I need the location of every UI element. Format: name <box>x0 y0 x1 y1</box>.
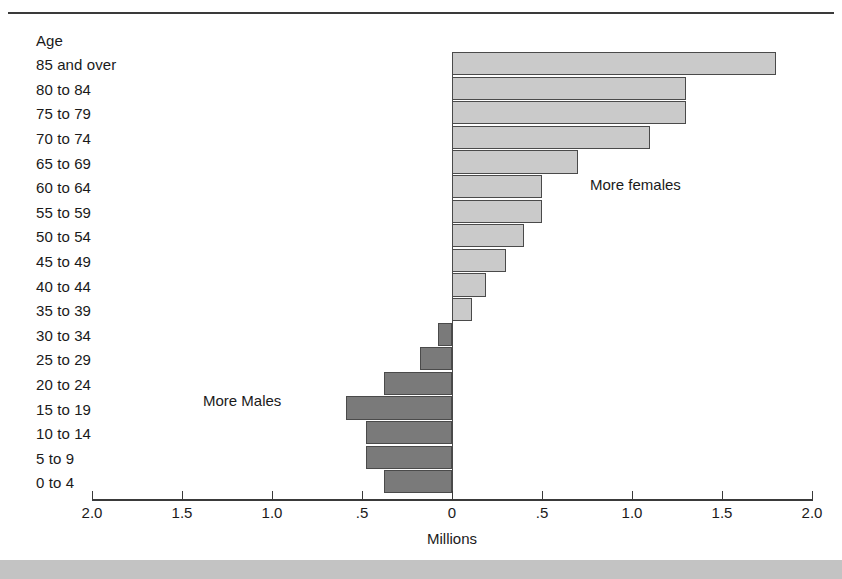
x-axis-tick <box>362 491 363 500</box>
age-group-label: 10 to 14 <box>36 425 91 442</box>
y-axis-title: Age <box>36 32 63 49</box>
x-axis-tick <box>542 491 543 500</box>
chart-row: 65 to 69 <box>0 150 842 175</box>
chart-row: 30 to 34 <box>0 323 842 348</box>
bar-more-males <box>384 470 452 493</box>
bar-more-females <box>452 224 524 247</box>
chart-row: 20 to 24 <box>0 372 842 397</box>
x-axis-tick <box>632 491 633 500</box>
bottom-color-band <box>0 560 842 579</box>
age-group-label: 70 to 74 <box>36 130 91 147</box>
bar-more-males <box>366 421 452 444</box>
age-group-label: 40 to 44 <box>36 277 91 294</box>
bar-more-males <box>420 347 452 370</box>
chart-row: 80 to 84 <box>0 77 842 102</box>
age-group-label: 0 to 4 <box>36 474 74 491</box>
bar-more-females <box>452 249 506 272</box>
chart-row: 0 to 4 <box>0 470 842 495</box>
x-axis-tick <box>182 491 183 500</box>
x-axis-tick-label: .5 <box>536 504 549 521</box>
x-axis-tick <box>812 491 813 500</box>
age-group-label: 65 to 69 <box>36 154 91 171</box>
bar-more-females <box>452 101 686 124</box>
x-axis-tick-label: 1.0 <box>622 504 643 521</box>
age-group-label: 75 to 79 <box>36 105 91 122</box>
annotation-more-females: More females <box>590 176 681 193</box>
bar-more-females <box>452 175 542 198</box>
chart-row: 35 to 39 <box>0 298 842 323</box>
age-group-label: 80 to 84 <box>36 80 91 97</box>
bar-more-males <box>346 396 452 419</box>
age-group-label: 50 to 54 <box>36 228 91 245</box>
x-axis-tick-label: 1.5 <box>712 504 733 521</box>
x-axis-tick-label: 1.5 <box>172 504 193 521</box>
x-axis-tick-label: 2.0 <box>802 504 823 521</box>
x-axis-title: Millions <box>427 530 477 547</box>
age-group-label: 25 to 29 <box>36 351 91 368</box>
age-group-label: 85 and over <box>36 56 116 73</box>
chart-rows: 85 and over80 to 8475 to 7970 to 7465 to… <box>0 52 842 495</box>
x-axis-tick <box>722 491 723 500</box>
age-group-label: 35 to 39 <box>36 302 91 319</box>
age-group-label: 15 to 19 <box>36 400 91 417</box>
x-axis-tick <box>92 491 93 500</box>
zero-axis-line <box>452 52 453 495</box>
age-group-label: 20 to 24 <box>36 376 91 393</box>
chart-row: 85 and over <box>0 52 842 77</box>
chart-row: 15 to 19 <box>0 396 842 421</box>
x-axis-tick-label: 0 <box>448 504 456 521</box>
chart-row: 70 to 74 <box>0 126 842 151</box>
x-axis-tick <box>272 491 273 500</box>
chart-row: 5 to 9 <box>0 446 842 471</box>
bar-more-females <box>452 273 486 296</box>
figure-canvas: Age 85 and over80 to 8475 to 7970 to 746… <box>0 0 842 579</box>
bar-more-females <box>452 52 776 75</box>
age-group-label: 45 to 49 <box>36 253 91 270</box>
bar-more-females <box>452 298 472 321</box>
chart-row: 75 to 79 <box>0 101 842 126</box>
chart-row: 60 to 64 <box>0 175 842 200</box>
bar-more-females <box>452 126 650 149</box>
bar-more-males <box>384 372 452 395</box>
bar-more-females <box>452 77 686 100</box>
bar-more-males <box>438 323 452 346</box>
chart-row: 45 to 49 <box>0 249 842 274</box>
age-group-label: 55 to 59 <box>36 203 91 220</box>
age-group-label: 5 to 9 <box>36 449 74 466</box>
chart-row: 40 to 44 <box>0 273 842 298</box>
population-pyramid-chart: Age 85 and over80 to 8475 to 7970 to 746… <box>0 0 842 560</box>
x-axis-tick-label: .5 <box>356 504 369 521</box>
chart-row: 50 to 54 <box>0 224 842 249</box>
x-axis-tick <box>452 491 453 500</box>
x-axis-tick-label: 2.0 <box>82 504 103 521</box>
chart-row: 55 to 59 <box>0 200 842 225</box>
age-group-label: 30 to 34 <box>36 326 91 343</box>
chart-row: 10 to 14 <box>0 421 842 446</box>
bar-more-males <box>366 446 452 469</box>
bar-more-females <box>452 200 542 223</box>
chart-row: 25 to 29 <box>0 347 842 372</box>
bar-more-females <box>452 150 578 173</box>
x-axis-tick-label: 1.0 <box>262 504 283 521</box>
annotation-more-males: More Males <box>203 392 281 409</box>
age-group-label: 60 to 64 <box>36 179 91 196</box>
